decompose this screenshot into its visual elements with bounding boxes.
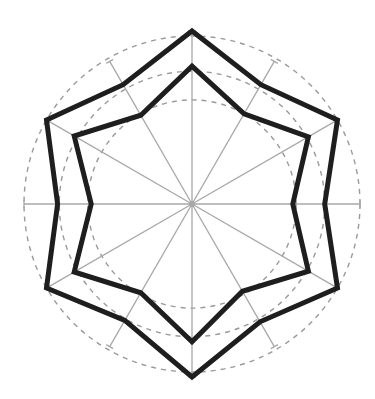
axis-spoke-2 <box>192 122 335 204</box>
center-hub <box>189 201 195 207</box>
axis-spoke-8 <box>49 204 192 286</box>
axis-spoke-7 <box>110 204 192 347</box>
axis-spoke-10 <box>49 122 192 204</box>
axis-end-tick-1 <box>271 59 278 63</box>
axis-end-tick-7 <box>106 345 113 349</box>
axis-end-tick-5 <box>271 345 278 349</box>
axis-spoke-4 <box>192 204 335 286</box>
radar-chart <box>0 0 375 399</box>
axis-spoke-5 <box>192 204 274 347</box>
axis-end-tick-11 <box>106 59 113 63</box>
